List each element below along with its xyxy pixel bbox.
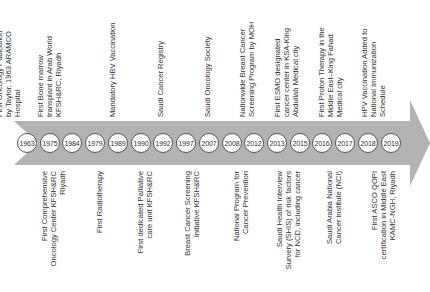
year-circle: 1975	[40, 133, 60, 153]
year-circle: 1989	[108, 133, 128, 153]
year-circle: 1990	[131, 133, 151, 153]
year-circle: 2013	[267, 133, 287, 153]
year-circle: 1979	[85, 133, 105, 153]
year-circle: 2016	[312, 133, 332, 153]
year-circle: 2007	[199, 133, 219, 153]
year-circle: 2008	[222, 133, 242, 153]
year-circle: 1997	[176, 133, 196, 153]
year-circle: 2012	[244, 133, 264, 153]
year-circle: 2015	[290, 133, 310, 153]
year-circle: 1992	[153, 133, 173, 153]
year-circle: 2018	[358, 133, 378, 153]
year-circle: 2019	[381, 133, 401, 153]
year-circle: 1963	[17, 133, 37, 153]
year-circle: 1984	[62, 133, 82, 153]
year-circle: 2017	[335, 133, 355, 153]
